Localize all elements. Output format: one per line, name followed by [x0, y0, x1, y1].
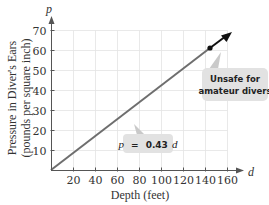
y-axis-arrow-icon: [49, 16, 55, 24]
equation-var-p: p: [118, 138, 125, 150]
y-tick-label: 70: [33, 25, 47, 38]
pressure-depth-chart: 20406080100120140160 10203040506070 p d …: [0, 0, 269, 205]
equation-callout: p = 0.43 d: [118, 124, 178, 153]
x-tick-label: 40: [89, 174, 103, 187]
unsafe-callout-line2: amateur divers: [199, 86, 269, 96]
unsafe-callout-line1: Unsafe for: [210, 74, 261, 84]
x-tick-label: 140: [195, 174, 216, 187]
y-tick-label: 60: [33, 45, 47, 58]
unsafe-callout: Unsafe for amateur divers: [199, 52, 269, 101]
y-axis-variable: p: [45, 2, 52, 16]
y-tick-label: 20: [33, 125, 47, 138]
unsafe-callout-pointer: [209, 52, 221, 69]
equation-coefficient: 0.43: [146, 140, 168, 150]
x-tick-label: 100: [151, 174, 172, 187]
equation-var-d: d: [172, 138, 178, 150]
x-tick-label: 20: [67, 174, 81, 187]
x-axis-variable: d: [248, 165, 255, 179]
y-tick-label: 30: [33, 105, 47, 118]
x-tick-label: 80: [133, 174, 147, 187]
x-axis-title: Depth (feet): [111, 188, 169, 202]
line-arrowhead-icon: [221, 32, 232, 42]
x-tick-label: 60: [111, 174, 125, 187]
y-tick-label: 40: [33, 85, 47, 98]
y-tick-label: 10: [33, 145, 47, 158]
equation-equals: =: [131, 140, 139, 150]
y-axis-title-line2: (pounds per square inch): [19, 39, 33, 158]
y-tick-label: 50: [33, 65, 47, 78]
x-tick-label: 120: [173, 174, 194, 187]
y-axis-title-line1: Pressure in Diver's Ears: [5, 40, 19, 155]
unsafe-threshold-dot: [207, 45, 212, 50]
x-tick-label: 160: [217, 174, 238, 187]
